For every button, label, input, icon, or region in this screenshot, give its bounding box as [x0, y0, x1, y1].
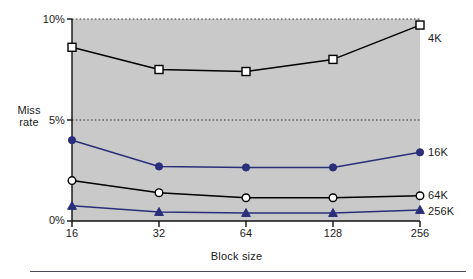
data-point-64k-16	[68, 177, 76, 185]
series-label-4k: 4K	[428, 33, 442, 44]
data-point-16k-64	[242, 164, 249, 171]
data-point-4k-256	[416, 21, 424, 29]
series-label-256k: 256K	[428, 206, 454, 217]
data-point-64k-64	[242, 194, 250, 202]
data-point-16k-128	[329, 164, 336, 171]
data-point-4k-128	[329, 55, 337, 63]
data-point-16k-256	[416, 149, 423, 156]
data-point-4k-16	[68, 43, 76, 51]
series-label-16k: 16K	[428, 147, 448, 158]
data-point-16k-16	[68, 137, 75, 144]
data-point-64k-256	[416, 192, 424, 200]
data-point-16k-32	[155, 163, 162, 170]
series-label-64k: 64K	[428, 190, 448, 201]
data-point-64k-32	[155, 189, 163, 197]
footer-divider	[30, 271, 466, 272]
x-axis-title: Block size	[0, 250, 473, 262]
chart-figure: Miss rate 10% 5% 0% 16 32 64 128 256 4K …	[0, 0, 473, 279]
data-point-4k-32	[155, 66, 163, 74]
plot-area	[0, 0, 473, 279]
plot-background	[72, 19, 420, 221]
data-point-64k-128	[329, 194, 337, 202]
data-point-4k-64	[242, 68, 250, 76]
